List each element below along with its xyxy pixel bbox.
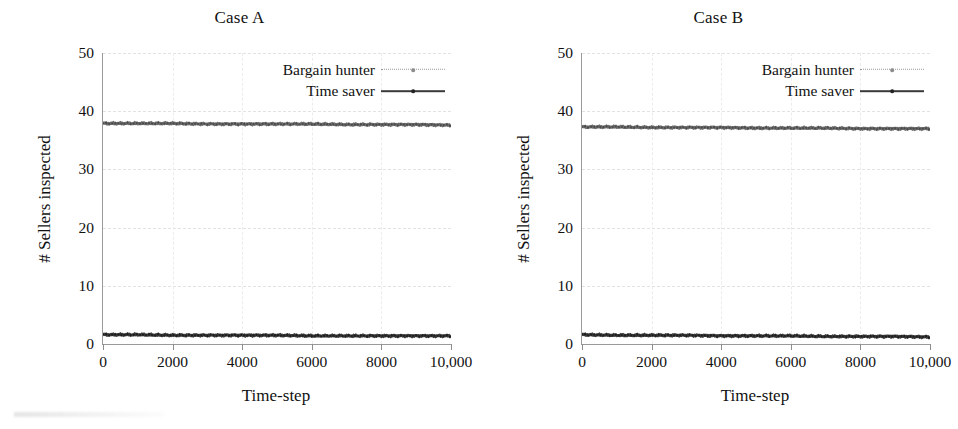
legend-label-bargain-hunter-b: Bargain hunter [762, 61, 854, 79]
figure-two-panel-line-chart: Case A # Sellers inspected Bargain hunte… [0, 0, 958, 429]
x-axis-tick-mark [791, 344, 792, 350]
x-axis-tick-mark [103, 344, 104, 350]
x-axis-tick-mark [652, 344, 653, 350]
legend-label-time-saver-b: Time saver [785, 82, 854, 100]
x-axis-tick-mark [312, 344, 313, 350]
x-axis-label-case-a: Time-step [102, 386, 450, 406]
x-axis-tick-mark [173, 344, 174, 350]
legend-case-a: Bargain hunter Time saver [283, 61, 445, 100]
plot-area-case-a: Bargain hunter Time saver 01020304050020… [102, 53, 451, 345]
x-axis-tick-label: 10,000 [430, 353, 473, 371]
x-axis-tick-label: 0 [99, 353, 107, 371]
x-axis-tick-mark [930, 344, 931, 350]
plot-area-case-b: Bargain hunter Time saver 01020304050020… [581, 53, 930, 345]
x-axis-tick-mark [860, 344, 861, 350]
y-axis-label-text-case-a: # Sellers inspected [35, 135, 55, 262]
legend-label-time-saver-a: Time saver [306, 82, 375, 100]
legend-label-bargain-hunter-a: Bargain hunter [283, 61, 375, 79]
y-axis-tick-label: 10 [30, 277, 103, 295]
y-axis-tick-label: 20 [30, 219, 103, 237]
y-axis-tick-label: 30 [509, 160, 582, 178]
legend-item-time-saver-a: Time saver [306, 82, 445, 100]
x-axis-tick-mark [721, 344, 722, 350]
chart-panel-case-b: Case B # Sellers inspected Bargain hunte… [479, 0, 958, 429]
x-axis-tick-label: 0 [578, 353, 586, 371]
scan-edge-artifact [14, 412, 164, 417]
x-axis-tick-label: 6000 [775, 353, 806, 371]
y-axis-label-case-a: # Sellers inspected [34, 53, 56, 344]
y-axis-tick-label: 50 [509, 44, 582, 62]
x-axis-label-case-b: Time-step [581, 386, 929, 406]
x-axis-tick-mark [242, 344, 243, 350]
legend-item-time-saver-b: Time saver [785, 82, 924, 100]
panel-title-case-b: Case B [479, 8, 958, 28]
x-axis-tick-label: 8000 [366, 353, 397, 371]
y-axis-tick-label: 30 [30, 160, 103, 178]
legend-key-bargain-hunter-a [381, 64, 445, 76]
x-axis-tick-label: 4000 [706, 353, 737, 371]
legend-item-bargain-hunter-b: Bargain hunter [762, 61, 924, 79]
y-axis-label-case-b: # Sellers inspected [513, 53, 535, 344]
chart-panel-case-a: Case A # Sellers inspected Bargain hunte… [0, 0, 479, 429]
x-axis-tick-label: 2000 [636, 353, 667, 371]
x-axis-tick-label: 6000 [296, 353, 327, 371]
y-axis-tick-label: 10 [509, 277, 582, 295]
panel-title-case-a: Case A [0, 8, 479, 28]
y-axis-tick-label: 0 [30, 335, 103, 353]
legend-item-bargain-hunter-a: Bargain hunter [283, 61, 445, 79]
y-axis-label-text-case-b: # Sellers inspected [514, 135, 534, 262]
y-axis-tick-label: 20 [509, 219, 582, 237]
x-axis-tick-mark [381, 344, 382, 350]
x-axis-tick-label: 10,000 [909, 353, 952, 371]
y-axis-tick-label: 0 [509, 335, 582, 353]
x-axis-tick-label: 4000 [227, 353, 258, 371]
y-axis-tick-label: 40 [509, 102, 582, 120]
legend-key-time-saver-b [860, 85, 924, 97]
y-axis-tick-label: 50 [30, 44, 103, 62]
legend-case-b: Bargain hunter Time saver [762, 61, 924, 100]
legend-key-time-saver-a [381, 85, 445, 97]
y-axis-tick-label: 40 [30, 102, 103, 120]
legend-key-bargain-hunter-b [860, 64, 924, 76]
x-axis-tick-mark [582, 344, 583, 350]
x-axis-tick-label: 2000 [157, 353, 188, 371]
x-axis-tick-mark [451, 344, 452, 350]
x-axis-tick-label: 8000 [845, 353, 876, 371]
